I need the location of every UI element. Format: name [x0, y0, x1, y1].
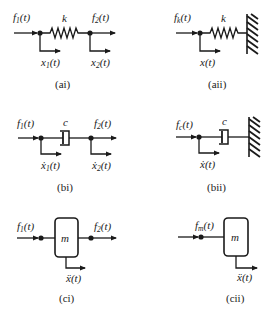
force-f1-label: f1(t): [17, 220, 35, 234]
spring-k-label: k: [62, 12, 68, 24]
velocity-x-arrow: [199, 137, 219, 153]
panel-ci-mass: f1(t) m f2(t) ẍ(t) (ci): [17, 218, 116, 305]
damper-c-label: c: [222, 115, 227, 127]
damper-c-label: c: [63, 116, 68, 128]
mass-m-label: m: [231, 231, 239, 243]
panel-aii-spring-ground: fk(t) k x(t) (aii): [174, 11, 258, 91]
displacement-x2-arrow: [90, 33, 110, 51]
force-fm-label: fm(t): [195, 219, 214, 233]
spring-icon: [40, 28, 90, 38]
panel-cii-mass-ground: fm(t) m ẍ(t) (cii): [178, 218, 257, 305]
vel-x2-label: ẋ2(t): [91, 159, 111, 173]
force-f1-label: f1(t): [17, 117, 35, 131]
caption-ai: (ai): [55, 78, 71, 91]
mechanical-elements-diagram: f1(t) k f2(t) x1(t) x2(t) (ai) fk(t) k: [0, 0, 273, 318]
velocity-x1-arrow: [41, 138, 61, 154]
damper-icon: [199, 130, 249, 144]
velocity-x2-arrow: [91, 138, 111, 154]
disp-x1-label: x1(t): [40, 56, 60, 70]
displacement-x-arrow: [200, 33, 220, 51]
vel-x-label: ẋ(t): [199, 158, 216, 171]
panel-ai-spring: f1(t) k f2(t) x1(t) x2(t) (ai): [13, 11, 115, 91]
displacement-x1-arrow: [40, 33, 60, 51]
panel-bii-damper-ground: fc(t) c ẋ(t) (bii): [176, 115, 260, 194]
ground-wall-icon: [249, 117, 260, 157]
vel-x1-label: ẋ1(t): [40, 159, 60, 173]
force-f2-label: f2(t): [92, 11, 110, 25]
force-f1-label: f1(t): [13, 11, 31, 25]
accel-label: ẍ(t): [65, 272, 82, 285]
caption-bii: (bii): [207, 181, 226, 194]
disp-x2-label: x2(t): [90, 56, 110, 70]
spring-k-label: k: [221, 12, 227, 24]
ground-wall-icon: [247, 14, 258, 54]
force-fk-label: fk(t): [174, 11, 191, 25]
force-f2-label: f2(t): [94, 220, 112, 234]
acceleration-arrow: [236, 256, 257, 268]
spring-icon: [200, 28, 247, 38]
caption-cii: (cii): [226, 292, 245, 305]
disp-x-label: x(t): [199, 56, 216, 69]
caption-ci: (ci): [59, 292, 75, 305]
mass-m-label: m: [61, 232, 69, 244]
force-fc-label: fc(t): [176, 118, 193, 132]
acceleration-arrow: [66, 257, 85, 268]
panel-bi-damper: f1(t) c f2(t) ẋ1(t) ẋ2(t) (bi): [17, 116, 116, 194]
caption-bi: (bi): [57, 181, 73, 194]
force-f2-label: f2(t): [94, 117, 112, 131]
accel-label: ẍ(t): [236, 271, 253, 284]
damper-icon: [41, 131, 91, 145]
caption-aii: (aii): [208, 78, 227, 91]
